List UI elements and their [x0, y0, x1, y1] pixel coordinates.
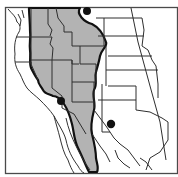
occurrence-dot-north	[83, 7, 91, 15]
occurrence-dot-texas	[107, 120, 115, 128]
occurrence-dot-california	[57, 97, 65, 105]
map-canvas	[0, 0, 178, 177]
range-map: Species range map — western North Americ…	[0, 0, 178, 177]
